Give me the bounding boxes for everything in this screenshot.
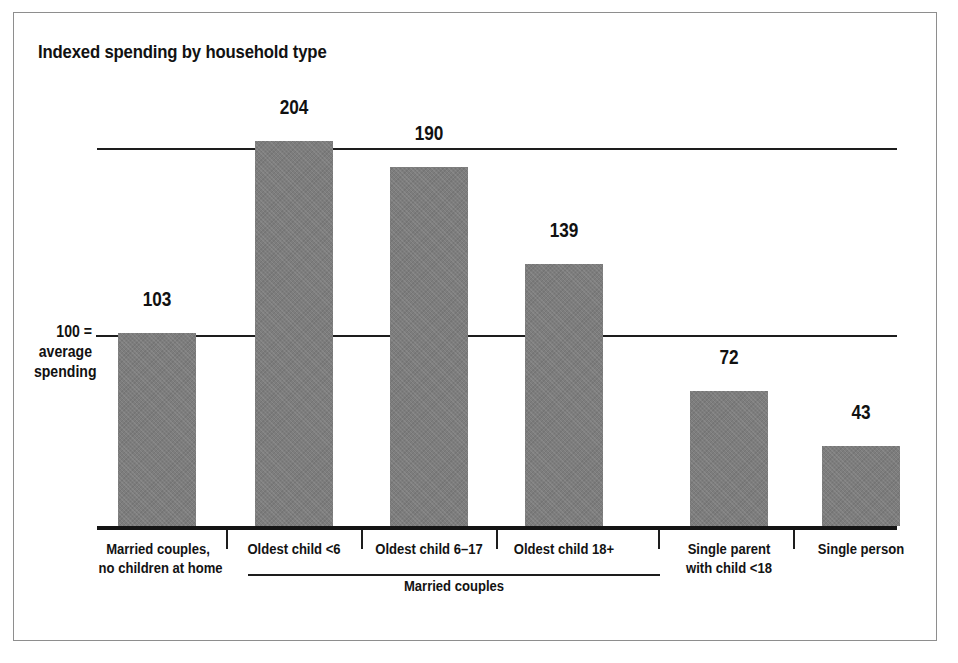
axis-tick	[793, 530, 795, 549]
category-label-line: Single parent	[670, 540, 789, 559]
bar-value-label: 103	[123, 288, 190, 311]
category-label-oldest-6-17: Oldest child 6–17	[370, 540, 489, 559]
axis-tick	[361, 530, 363, 549]
bar-value-label: 139	[530, 219, 597, 242]
group-bracket-line	[248, 574, 660, 576]
chart-page: Indexed spending by household type 100 =…	[0, 0, 958, 663]
axis-leader-line	[96, 335, 118, 337]
y-axis-caption-line-2: average	[34, 342, 92, 362]
bar-married-couples-no-children[interactable]	[118, 333, 196, 526]
axis-tick	[496, 530, 498, 549]
y-axis-caption-line-3: spending	[34, 362, 92, 382]
category-label-married-no-children: Married couples, no children at home	[99, 540, 218, 578]
plot-area: 100 = average spending 103 204 190 139 7…	[0, 0, 958, 663]
category-label-single-parent: Single parent with child <18	[670, 540, 789, 578]
gridline-100	[118, 335, 897, 337]
bar-value-label: 204	[260, 96, 327, 119]
bar-oldest-child-18-plus[interactable]	[525, 264, 603, 526]
axis-tick	[658, 530, 660, 549]
category-label-line: no children at home	[99, 559, 218, 578]
category-label-line: Married couples,	[99, 540, 218, 559]
category-label-line: Oldest child 6–17	[370, 540, 489, 559]
bar-single-parent-with-child[interactable]	[690, 391, 768, 526]
y-axis-caption: 100 = average spending	[34, 322, 92, 382]
bar-value-label: 190	[395, 122, 462, 145]
category-label-single-person: Single person	[802, 540, 921, 559]
category-label-oldest-under-6: Oldest child <6	[235, 540, 354, 559]
axis-tick	[226, 530, 228, 549]
gridline-200	[97, 148, 897, 150]
category-label-line: Oldest child <6	[235, 540, 354, 559]
bar-oldest-child-under-6[interactable]	[255, 141, 333, 526]
group-bracket-label: Married couples	[269, 578, 640, 594]
bar-value-label: 72	[695, 346, 762, 369]
bar-oldest-child-6-17[interactable]	[390, 167, 468, 526]
category-label-oldest-18-plus: Oldest child 18+	[505, 540, 624, 559]
category-label-line: Oldest child 18+	[505, 540, 624, 559]
y-axis-caption-line-1: 100 =	[34, 322, 92, 342]
bar-single-person[interactable]	[822, 446, 900, 526]
category-label-line: with child <18	[670, 559, 789, 578]
category-label-line: Single person	[802, 540, 921, 559]
bar-value-label: 43	[827, 401, 894, 424]
